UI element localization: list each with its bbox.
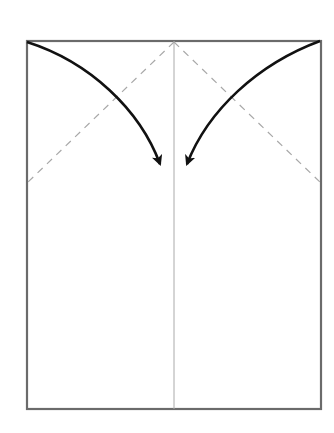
fold-diagram <box>0 0 334 433</box>
